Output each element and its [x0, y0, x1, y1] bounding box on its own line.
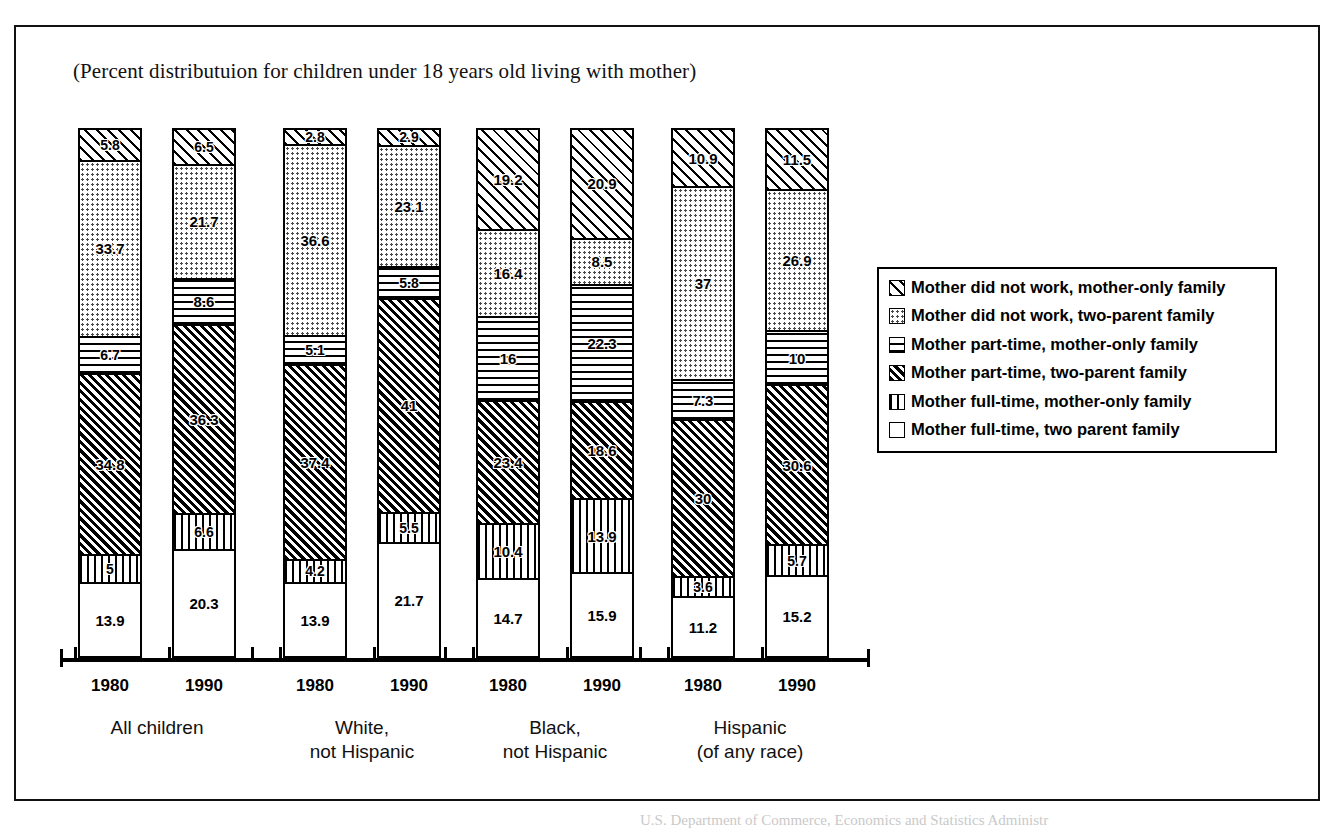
bar-segment[interactable]: 23.4 [478, 402, 538, 525]
bar-segment[interactable]: 21.7 [174, 166, 234, 280]
bar-segment[interactable]: 6.7 [80, 338, 140, 375]
bar-segment[interactable]: 37 [673, 188, 733, 381]
stacked-bar[interactable]: 19.216.41623.410.414.7 [476, 128, 540, 658]
segment-value-label: 6.7 [100, 348, 119, 362]
legend-item[interactable]: Mother full-time, two parent family [889, 420, 1265, 439]
bar-segment[interactable]: 8.5 [572, 240, 632, 286]
legend-item[interactable]: Mother did not work, two-parent family [889, 306, 1265, 325]
x-axis-year-label: 1990 [752, 676, 842, 696]
segment-value-label: 8.5 [592, 254, 613, 269]
legend-swatch-icon [889, 337, 905, 353]
bar-segment[interactable]: 18.6 [572, 403, 632, 501]
group-label-line: (of any race) [697, 741, 804, 762]
segment-value-label: 10.9 [688, 151, 717, 166]
bar-segment[interactable]: 10 [767, 332, 827, 386]
segment-value-label: 5.7 [787, 554, 806, 568]
stacked-bar[interactable]: 2.923.15.8415.521.7 [377, 128, 441, 658]
axis-tick [444, 647, 447, 662]
x-axis-year-label: 1980 [65, 676, 155, 696]
legend-item[interactable]: Mother full-time, mother-only family [889, 392, 1265, 411]
x-axis-year-label: 1980 [463, 676, 553, 696]
bar-segment[interactable]: 20.3 [174, 551, 234, 656]
bar-segment[interactable]: 7.3 [673, 381, 733, 421]
stacked-bar[interactable]: 20.98.522.318.613.915.9 [570, 128, 634, 658]
segment-value-label: 41 [401, 398, 418, 413]
legend-item[interactable]: Mother part-time, two-parent family [889, 363, 1265, 382]
legend-item-label: Mother part-time, mother-only family [911, 335, 1198, 354]
stacked-bar[interactable]: 10.9377.3303.611.2 [671, 128, 735, 658]
scan-artifact-footer: U.S. Department of Commerce, Economics a… [640, 812, 1340, 829]
segment-value-label: 20.3 [189, 596, 218, 611]
group-label-line: Black, [529, 717, 581, 738]
bar-segment[interactable]: 16.4 [478, 231, 538, 318]
bar-segment[interactable]: 10.9 [673, 130, 733, 188]
bar-segment[interactable]: 5 [80, 556, 140, 584]
stacked-bar[interactable]: 6.521.78.636.36.620.3 [172, 128, 236, 658]
legend-item[interactable]: Mother did not work, mother-only family [889, 278, 1265, 297]
bar-segment[interactable]: 6.5 [174, 130, 234, 166]
x-axis-year-label: 1990 [159, 676, 249, 696]
segment-value-label: 5.5 [399, 521, 418, 535]
bar-segment[interactable]: 11.2 [673, 598, 733, 656]
x-axis-group-label: All children [47, 716, 267, 740]
segment-value-label: 21.7 [189, 214, 218, 229]
bar-segment[interactable]: 13.9 [285, 584, 345, 656]
bar-segment[interactable]: 4.2 [285, 561, 345, 585]
bar-segment[interactable]: 33.7 [80, 162, 140, 338]
bar-segment[interactable]: 23.1 [379, 147, 439, 268]
axis-tick [761, 647, 764, 662]
axis-end-cap [867, 649, 870, 667]
bar-segment[interactable]: 6.6 [174, 515, 234, 551]
bar-segment[interactable]: 2.9 [379, 130, 439, 147]
stacked-bar[interactable]: 5.833.76.734.8513.9 [78, 128, 142, 658]
bar-segment[interactable]: 15.2 [767, 577, 827, 656]
bar-segment[interactable]: 5.5 [379, 514, 439, 544]
bar-segment[interactable]: 37.4 [285, 366, 345, 561]
bar-segment[interactable]: 14.7 [478, 580, 538, 656]
bar-segment[interactable]: 13.9 [572, 500, 632, 574]
bar-segment[interactable]: 26.9 [767, 191, 827, 332]
bar-segment[interactable]: 34.8 [80, 375, 140, 557]
segment-value-label: 6.5 [194, 140, 213, 154]
bar-segment[interactable]: 8.6 [174, 280, 234, 326]
bar-segment[interactable]: 5.8 [80, 130, 140, 162]
bar-segment[interactable]: 5.1 [285, 337, 345, 365]
group-label-line: All children [111, 717, 204, 738]
axis-tick [639, 647, 642, 662]
bar-segment[interactable]: 30.6 [767, 386, 827, 546]
bar-segment[interactable]: 13.9 [80, 584, 140, 656]
bar-segment[interactable]: 15.9 [572, 574, 632, 656]
segment-value-label: 13.9 [95, 613, 124, 628]
legend-swatch-icon [889, 365, 905, 381]
segment-value-label: 36.3 [189, 412, 218, 427]
segment-value-label: 30.6 [782, 458, 811, 473]
bar-segment[interactable]: 3.6 [673, 578, 733, 599]
segment-value-label: 33.7 [95, 241, 124, 256]
stacked-bar[interactable]: 11.526.91030.65.715.2 [765, 128, 829, 658]
bar-segment[interactable]: 5.7 [767, 546, 827, 577]
bar-segment[interactable]: 16 [478, 318, 538, 402]
bar-segment[interactable]: 21.7 [379, 544, 439, 656]
bar-segment[interactable]: 11.5 [767, 130, 827, 191]
segment-value-label: 23.4 [493, 455, 522, 470]
bar-segment[interactable]: 30 [673, 421, 733, 578]
legend-item-label: Mother did not work, two-parent family [911, 306, 1214, 325]
axis-tick [566, 647, 569, 662]
legend-item[interactable]: Mother part-time, mother-only family [889, 335, 1265, 354]
bar-segment[interactable]: 5.8 [379, 268, 439, 300]
bar-segment[interactable]: 41 [379, 300, 439, 514]
segment-value-label: 5.8 [100, 138, 119, 152]
bar-segment[interactable]: 19.2 [478, 130, 538, 231]
bar-segment[interactable]: 36.3 [174, 326, 234, 515]
chart-title: (Percent distributuion for children unde… [73, 59, 696, 84]
bar-segment[interactable]: 22.3 [572, 286, 632, 403]
bar-segment[interactable]: 10.4 [478, 525, 538, 581]
figure-page: (Percent distributuion for children unde… [0, 0, 1342, 834]
segment-value-label: 13.9 [300, 613, 329, 628]
legend-item-label: Mother part-time, two-parent family [911, 363, 1187, 382]
bar-segment[interactable]: 2.8 [285, 130, 345, 146]
stacked-bar[interactable]: 2.836.65.137.44.213.9 [283, 128, 347, 658]
segment-value-label: 16.4 [493, 266, 522, 281]
bar-segment[interactable]: 20.9 [572, 130, 632, 240]
bar-segment[interactable]: 36.6 [285, 146, 345, 337]
